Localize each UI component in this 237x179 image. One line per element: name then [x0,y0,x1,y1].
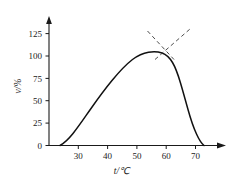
x-tick-label-30: 30 [74,151,84,161]
dashed-guide-right [155,29,190,60]
reaction-rate-curve [60,52,204,146]
y-tick-label-25: 25 [33,118,43,128]
chart-figure: 0 25 50 75 100 125 30 40 50 60 70 t/℃ v/… [0,0,237,179]
y-tick-label-50: 50 [33,96,43,106]
x-axis [49,143,226,149]
x-tick-label-50: 50 [132,151,142,161]
dashed-guides [148,29,191,60]
plot-area: 0 25 50 75 100 125 30 40 50 60 70 t/℃ v/… [0,0,237,179]
x-tick-label-60: 60 [162,151,172,161]
x-tick-label-40: 40 [103,151,113,161]
y-tick-label-100: 100 [29,51,43,61]
x-tick-label-70: 70 [191,151,201,161]
dashed-guide-left [148,31,175,60]
x-axis-title: t/℃ [114,166,131,176]
y-axis [46,16,52,146]
y-tick-label-125: 125 [29,29,43,39]
y-axis-tick-labels: 0 25 50 75 100 125 [29,29,43,151]
y-tick-label-0: 0 [38,141,43,151]
y-axis-arrow-icon [46,16,52,24]
y-tick-label-75: 75 [33,74,43,84]
x-axis-arrow-icon [217,143,226,149]
x-axis-tick-labels: 30 40 50 60 70 [74,151,201,161]
y-axis-title: v/% [13,79,23,94]
